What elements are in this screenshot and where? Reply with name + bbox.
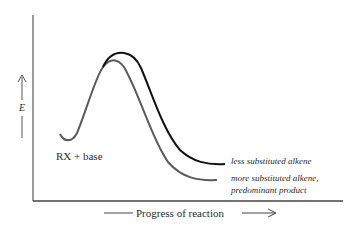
y-axis-label: E (18, 102, 25, 113)
curve-more-substituted-alkene (60, 60, 217, 180)
x-axis-label-group: Progress of reaction (104, 207, 276, 219)
label-more-substituted-line1: more substituted alkene, (231, 173, 318, 183)
energy-diagram: E RX + base less substituted alkene more… (0, 0, 359, 229)
y-axis-label-group: E (18, 75, 26, 138)
curve-less-substituted-alkene (103, 53, 225, 164)
label-more-substituted-line2: predominant product (230, 185, 307, 195)
start-label: RX + base (56, 150, 103, 162)
label-less-substituted: less substituted alkene (231, 156, 312, 166)
x-axis-label: Progress of reaction (136, 207, 224, 219)
